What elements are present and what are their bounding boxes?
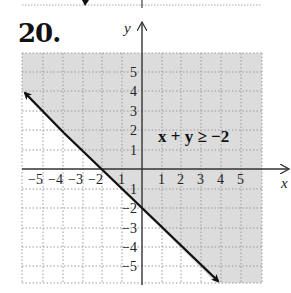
svg-text:5: 5: [130, 65, 137, 80]
svg-text:1: 1: [118, 172, 125, 187]
svg-text:−4: −4: [122, 240, 137, 255]
svg-text:4: 4: [130, 84, 137, 99]
svg-text:−3: −3: [122, 221, 137, 236]
x-axis-label: x: [280, 175, 288, 191]
svg-text:4: 4: [217, 172, 224, 187]
svg-text:1: 1: [130, 182, 137, 197]
previous-figure-remnant: [22, 0, 262, 8]
svg-text:2: 2: [130, 123, 137, 138]
inequality-label: x + y ≥ −2: [158, 127, 229, 146]
svg-text:2: 2: [177, 172, 184, 187]
svg-text:1: 1: [158, 172, 165, 187]
svg-text:5: 5: [237, 172, 244, 187]
svg-text:−3: −3: [68, 172, 83, 187]
svg-text:−2: −2: [122, 201, 137, 216]
svg-text:−2: −2: [88, 172, 103, 187]
svg-text:3: 3: [130, 104, 137, 119]
svg-text:3: 3: [197, 172, 204, 187]
svg-text:−5: −5: [122, 259, 137, 274]
y-axis-label: y: [122, 20, 131, 36]
svg-text:−4: −4: [48, 172, 63, 187]
inequality-graph: y x −5 −4 −3 −2 1 1 2 3 4 5 5 4 3 2 1 1 …: [0, 0, 291, 293]
svg-text:1: 1: [130, 143, 137, 158]
svg-text:−5: −5: [28, 172, 43, 187]
